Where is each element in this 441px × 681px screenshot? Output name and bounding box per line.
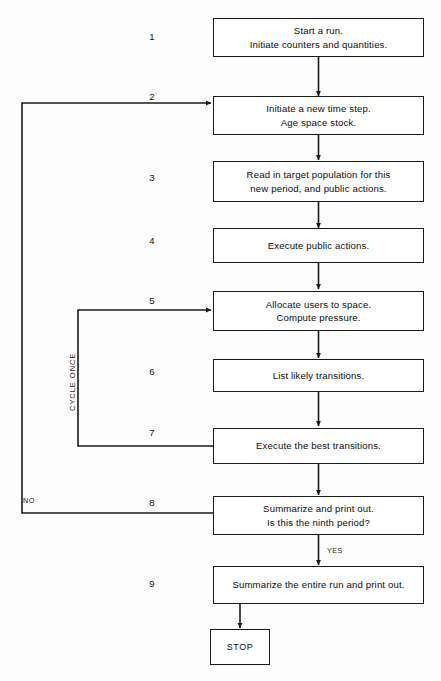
process-box-2[interactable]: Initiate a new time step. Age space stoc… (213, 96, 424, 135)
step-number-4: 4 (142, 235, 162, 246)
process-box-1-line-2: Initiate counters and quantities. (250, 38, 388, 52)
step-number-8: 8 (142, 497, 162, 508)
decision-box-8[interactable]: Summarize and print out. Is this the nin… (213, 496, 424, 535)
process-box-3-line-2: new period, and public actions. (250, 182, 386, 196)
process-box-3-line-1: Read in target population for this (247, 168, 391, 182)
stop-terminal-label: STOP (227, 642, 254, 652)
process-box-4[interactable]: Execute public actions. (213, 228, 424, 263)
step-number-1: 1 (142, 31, 162, 42)
flowchart-page: 1 2 3 4 5 6 7 8 9 Start a run. Initiate … (0, 0, 441, 681)
connector-cycle-once-7-to-5 (78, 310, 213, 446)
step-number-3: 3 (142, 172, 162, 183)
connector-no-8-to-2 (22, 103, 213, 513)
process-box-2-line-2: Age space stock. (281, 116, 356, 130)
step-number-2: 2 (142, 91, 162, 102)
process-box-5[interactable]: Allocate users to space. Compute pressur… (213, 291, 424, 331)
step-number-7: 7 (142, 427, 162, 438)
process-box-9[interactable]: Summarize the entire run and print out. (213, 566, 424, 604)
process-box-7[interactable]: Execute the best transitions. (213, 428, 424, 464)
step-number-6: 6 (142, 366, 162, 377)
process-box-1[interactable]: Start a run. Initiate counters and quant… (213, 18, 424, 57)
process-box-9-line-1: Summarize the entire run and print out. (232, 578, 404, 592)
process-box-4-line-1: Execute public actions. (268, 239, 370, 253)
process-box-5-line-2: Compute pressure. (276, 311, 360, 325)
step-number-9: 9 (142, 578, 162, 589)
edge-label-cycle-once: CYCLE ONCE (68, 353, 77, 411)
process-box-7-line-1: Execute the best transitions. (256, 439, 381, 453)
decision-box-8-line-1: Summarize and print out. (263, 502, 374, 516)
process-box-1-line-1: Start a run. (294, 24, 343, 38)
decision-box-8-line-2: Is this the ninth period? (267, 516, 370, 530)
process-box-5-line-1: Allocate users to space. (266, 298, 371, 312)
edge-label-no: NO (23, 496, 35, 505)
process-box-2-line-1: Initiate a new time step. (266, 102, 371, 116)
process-box-6-line-1: List likely transitions. (273, 369, 365, 383)
step-number-5: 5 (142, 295, 162, 306)
process-box-6[interactable]: List likely transitions. (213, 359, 424, 392)
process-box-3[interactable]: Read in target population for this new p… (213, 161, 424, 202)
edge-label-yes: YES (327, 546, 343, 555)
stop-terminal-box[interactable]: STOP (210, 629, 270, 665)
